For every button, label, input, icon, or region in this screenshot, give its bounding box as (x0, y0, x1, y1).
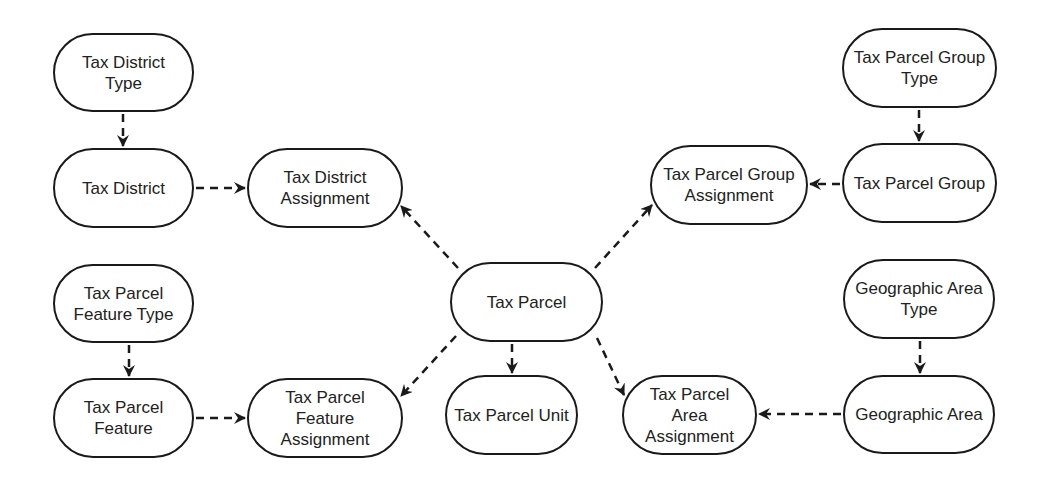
node-label: Tax Parcel (487, 292, 566, 313)
node-tax-parcel-unit: Tax Parcel Unit (445, 375, 578, 455)
node-label: Geographic Area (855, 404, 983, 425)
node-label: Tax Parcel Feature Type (74, 283, 174, 325)
node-label: Tax Parcel Group Assignment (663, 164, 794, 206)
node-geographic-area: Geographic Area (843, 375, 995, 454)
node-tax-district-type: Tax District Type (53, 33, 194, 112)
node-tax-district-assignment: Tax District Assignment (247, 148, 403, 228)
node-label: Tax District Assignment (281, 167, 370, 209)
edge-tax-parcel-to-tax-parcel-feature-assignment (401, 336, 456, 396)
node-tax-parcel-group-type: Tax Parcel Group Type (842, 28, 997, 108)
edge-tax-parcel-to-tax-parcel-area-assignment (597, 338, 624, 395)
node-label: Tax District Type (82, 52, 165, 94)
node-label: Tax Parcel Feature (84, 397, 163, 439)
edge-tax-parcel-to-tax-district-assignment (401, 206, 458, 268)
node-label: Tax Parcel Group (854, 173, 985, 194)
node-label: Tax Parcel Feature Assignment (281, 387, 370, 450)
node-geographic-area-type: Geographic Area Type (843, 259, 995, 339)
node-label: Tax District (82, 178, 165, 199)
node-label: Tax Parcel Group Type (854, 47, 985, 89)
node-tax-parcel-group-assignment: Tax Parcel Group Assignment (650, 145, 808, 225)
node-tax-parcel-feature-assignment: Tax Parcel Feature Assignment (247, 378, 403, 458)
node-tax-parcel-group: Tax Parcel Group (842, 143, 997, 223)
node-label: Tax Parcel Unit (454, 405, 568, 426)
node-label: Geographic Area Type (855, 278, 983, 320)
node-label: Tax Parcel Area Assignment (630, 384, 749, 447)
node-tax-parcel-area-assignment: Tax Parcel Area Assignment (622, 375, 757, 455)
node-tax-parcel-feature: Tax Parcel Feature (53, 378, 194, 458)
node-tax-parcel: Tax Parcel (450, 262, 603, 342)
edge-tax-parcel-to-tax-parcel-group-assignment (595, 205, 652, 268)
node-tax-district: Tax District (53, 148, 194, 228)
node-tax-parcel-feature-type: Tax Parcel Feature Type (53, 264, 194, 343)
